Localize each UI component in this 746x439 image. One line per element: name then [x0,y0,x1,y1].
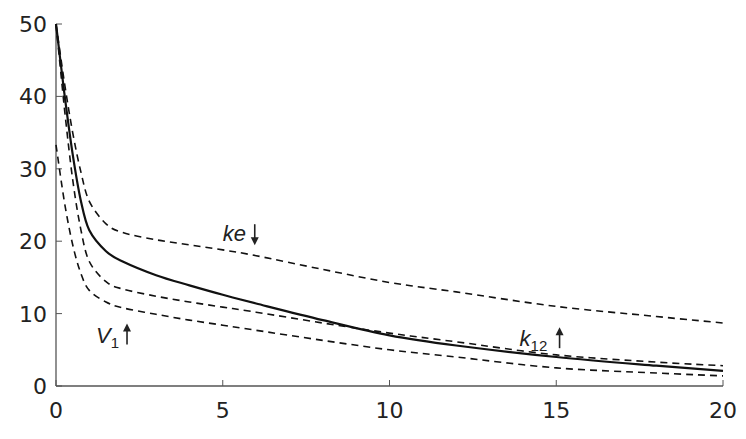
annotation-label: V1 [96,323,119,351]
series-line-ke [56,24,723,323]
annotation-subscript: 12 [531,337,548,354]
series-line-baseline [56,24,723,371]
annotations: keV1k12 [96,221,564,354]
arrow-down-icon [251,224,259,245]
arrow-up-icon [556,327,564,348]
axes [56,24,723,386]
annotation-subscript: 1 [111,334,119,351]
annotation-v1: V1 [96,323,131,351]
x-tick-label: 20 [709,398,737,423]
annotation-label: k12 [520,326,548,354]
y-tick-label: 50 [19,12,47,37]
y-tick-label: 20 [19,229,47,254]
chart: 01020304050 05101520 keV1k12 [0,0,746,439]
y-tick-label: 10 [19,302,47,327]
y-tick-label: 40 [19,84,47,109]
annotation-k12: k12 [520,326,564,354]
x-tick-label: 5 [216,398,230,423]
x-tick-label: 10 [376,398,404,423]
x-tick-label: 15 [542,398,570,423]
annotation-ke: ke [223,221,259,246]
annotation-label: ke [223,221,246,246]
series-line-v1 [56,145,723,376]
series-lines [56,24,723,376]
arrow-up-icon [123,324,131,345]
y-tick-label: 30 [19,157,47,182]
y-tick-label: 0 [33,374,47,399]
x-tick-label: 0 [49,398,63,423]
